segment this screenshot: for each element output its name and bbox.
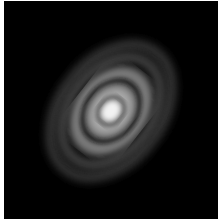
disk-image [4, 1, 218, 219]
ring-disk-graphic [4, 1, 218, 219]
